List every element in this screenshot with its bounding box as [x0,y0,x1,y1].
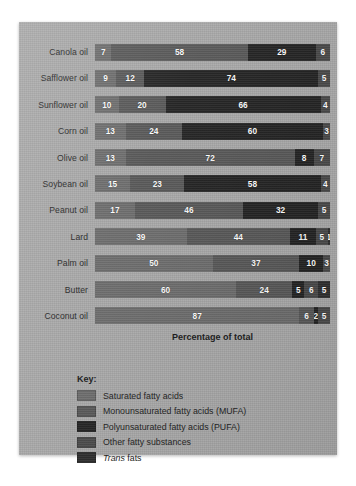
chart-row: Canola oil758296 [26,42,330,62]
legend-label-text: Polyunsaturated fatty acids (PUFA) [103,422,240,432]
segment-value-label: 5 [319,232,324,242]
segment-value-label: 87 [193,311,202,321]
segment-value-label: 66 [238,100,247,110]
stacked-bar: 912745 [95,70,330,87]
bar-segment-other: 6 [304,281,318,298]
legend-swatch-sat [77,390,96,401]
bar-segment-sat: 13 [95,149,126,166]
segment-value-label: 24 [260,285,269,295]
segment-value-label: 20 [137,100,146,110]
legend-item: Polyunsaturated fatty acids (PUFA) [77,419,327,435]
bar-segment-mufa: 24 [236,281,292,298]
legend-label-italic-prefix: Trans [103,453,125,463]
legend-label: Trans fats [103,453,141,463]
bar-segment-pufa: 66 [166,96,321,113]
row-category-label: Olive oil [26,153,95,163]
legend-label-text: Other fatty substances [103,437,191,447]
chart-row: Butter6024565 [26,280,330,300]
legend-item: Trans fats [77,450,327,466]
stacked-bar: 758296 [95,44,330,61]
bar-segment-sat: 39 [95,228,187,245]
row-category-label: Butter [26,285,95,295]
segment-value-label: 3 [324,126,329,136]
row-category-label: Palm oil [26,258,95,268]
segment-value-label: 15 [108,179,117,189]
bar-segment-sat: 7 [95,44,111,61]
segment-value-label: 72 [206,153,215,163]
segment-value-label: 32 [276,205,285,215]
row-category-label: Safflower oil [26,73,95,83]
legend-swatch-other [77,437,96,448]
bar-segment-pufa: 10 [299,255,323,272]
bar-segment-pufa: 58 [184,175,320,192]
bar-segment-pufa: 11 [290,228,316,245]
segment-value-label: 58 [248,179,257,189]
segment-value-label: 3 [324,258,329,268]
x-axis-title: Percentage of total [95,332,330,342]
legend-label: Other fatty substances [103,437,191,447]
bar-segment-other: 5 [316,228,328,245]
legend-label-text: Monounsaturated fatty acids (MUFA) [103,406,246,416]
segment-value-label: 4 [323,100,328,110]
bar-segment-mufa: 44 [187,228,290,245]
segment-value-label: 24 [149,126,158,136]
bar-segment-pufa: 5 [292,281,304,298]
segment-value-label: 17 [110,205,119,215]
bar-segment-other: 3 [323,255,330,272]
bar-segment-pufa: 32 [243,202,318,219]
legend-item: Saturated fatty acids [77,388,327,404]
segment-value-label: 58 [175,47,184,57]
stacked-bar: 6024565 [95,281,330,298]
stacked-bar: 1523584 [95,175,330,192]
segment-value-label: 11 [299,232,308,242]
segment-value-label: 4 [323,179,328,189]
chart-page: Canola oil758296Safflower oil912745Sunfl… [0,0,356,486]
segment-value-label: 7 [319,153,324,163]
chart-row: Safflower oil912745 [26,68,330,88]
segment-value-label: 46 [184,205,193,215]
bar-segment-pufa: 74 [144,70,318,87]
legend-label: Monounsaturated fatty acids (MUFA) [103,406,246,416]
chart-rows: Canola oil758296Safflower oil912745Sunfl… [26,42,330,326]
segment-value-label: 9 [103,73,108,83]
segment-value-label: 13 [106,153,115,163]
bar-segment-mufa: 24 [126,123,182,140]
bar-segment-sat: 60 [95,281,236,298]
stacked-bar-chart: Canola oil758296Safflower oil912745Sunfl… [26,42,330,342]
legend-label-text: Saturated fatty acids [103,391,183,401]
legend-title: Key: [77,374,327,384]
chart-row: Sunflower oil1020664 [26,95,330,115]
chart-row: Coconut oil87625 [26,306,330,326]
row-category-label: Canola oil [26,47,95,57]
bar-segment-other: 5 [318,307,330,324]
bar-segment-other: 7 [314,149,330,166]
bar-segment-mufa: 23 [130,175,184,192]
segment-value-label: 29 [277,47,286,57]
segment-value-label: 5 [322,285,327,295]
chart-legend: Key: Saturated fatty acidsMonounsaturate… [77,374,327,466]
segment-value-label: 6 [309,285,314,295]
bar-segment-other: 3 [323,123,330,140]
bar-segment-mufa: 37 [213,255,300,272]
chart-row: Soybean oil1523584 [26,174,330,194]
chart-row: Lard39441151 [26,227,330,247]
segment-value-label: 5 [322,205,327,215]
row-category-label: Coconut oil [26,311,95,321]
bar-segment-mufa: 20 [119,96,166,113]
row-category-label: Corn oil [26,126,95,136]
legend-item: Other fatty substances [77,435,327,451]
segment-value-label: 1 [328,232,330,242]
bar-segment-other: 4 [321,96,330,113]
chart-row: Olive oil137287 [26,148,330,168]
stacked-bar: 87625 [95,307,330,324]
legend-item: Monounsaturated fatty acids (MUFA) [77,404,327,420]
segment-value-label: 7 [101,47,106,57]
bar-segment-trans: 1 [328,228,330,245]
segment-value-label: 50 [149,258,158,268]
legend-swatch-mufa [77,406,96,417]
legend-label-text: fats [127,453,141,463]
segment-value-label: 23 [153,179,162,189]
row-category-label: Lard [26,232,95,242]
segment-value-label: 60 [161,285,170,295]
segment-value-label: 6 [321,47,326,57]
